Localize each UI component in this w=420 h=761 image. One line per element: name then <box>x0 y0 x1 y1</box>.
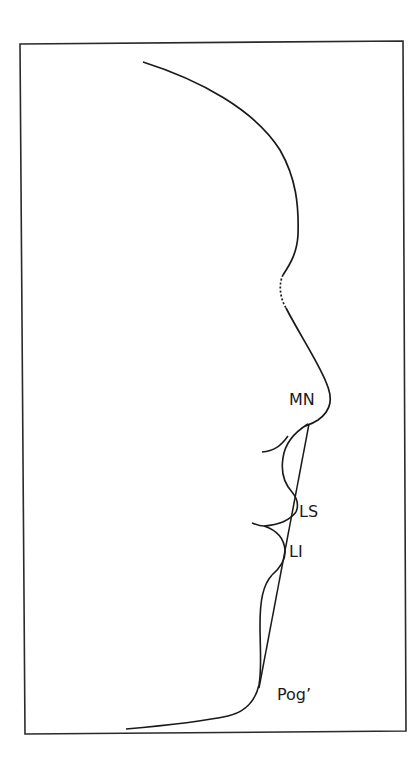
profile-diagram: MN LS LI Pog’ <box>0 0 420 761</box>
subnasale-curve <box>262 436 288 452</box>
nasion-dotted-segment <box>280 275 286 308</box>
forehead-curve <box>143 62 298 275</box>
chin-curve <box>126 575 272 729</box>
label-li: LI <box>289 542 303 561</box>
diagram-frame <box>20 41 406 734</box>
label-pog: Pog’ <box>277 685 311 704</box>
label-mn: MN <box>289 390 315 409</box>
label-ls: LS <box>299 502 318 521</box>
